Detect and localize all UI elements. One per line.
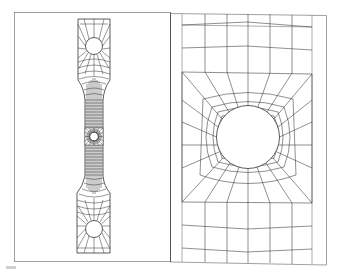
corner-mark [6,266,16,269]
left-panel-specimen [77,19,110,253]
center-hole-mesh [85,128,103,145]
mesh-drawing [0,0,337,275]
right-panel-detail [182,14,312,264]
